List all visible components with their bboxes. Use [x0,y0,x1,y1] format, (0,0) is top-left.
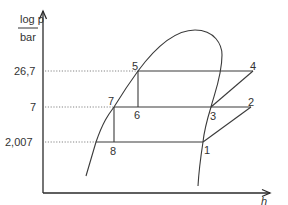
pressure-label-high: 26,7 [14,65,35,77]
pressure-label-mid: 7 [30,101,36,113]
point-label-7: 7 [108,95,114,107]
x-axis-label: h [261,195,267,205]
y-axis [40,11,47,193]
point-label-5: 5 [132,60,138,72]
point-label-8: 8 [110,145,116,157]
y-axis-label-top: log p [20,13,44,25]
point-label-2: 2 [248,96,254,108]
pressure-label-low: 2,007 [5,136,33,148]
x-axis [43,190,270,197]
saturation-dome [86,30,222,186]
y-axis-label-bottom: bar [20,31,36,43]
cycle-lines [96,71,253,142]
log-p-h-diagram: log p bar h 26,7 7 2,007 1 2 3 4 5 6 7 8 [0,0,288,205]
point-label-6: 6 [134,109,140,121]
point-label-4: 4 [250,60,256,72]
point-label-3: 3 [210,110,216,122]
point-label-1: 1 [204,144,210,156]
